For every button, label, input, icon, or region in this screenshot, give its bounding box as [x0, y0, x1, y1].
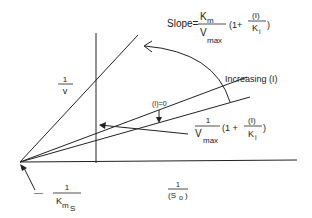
slope-prefix: Slope= — [167, 18, 199, 29]
x-label-den: (S — [168, 191, 176, 200]
xint-den-sub: m — [62, 201, 69, 210]
intercept-frac-num: (I) — [248, 116, 256, 125]
intercept-den: V — [195, 128, 202, 139]
intercept-den-sub: max — [203, 136, 218, 145]
xint-den-sub2: S — [70, 204, 75, 213]
xintercept-arrowhead-icon — [20, 164, 27, 171]
increasing-label: Increasing (I) — [225, 74, 278, 84]
intercept-factor-close: ) — [263, 123, 266, 133]
diagram-canvas: 1 v Slope= K m V max (1+ (I) K i ) Incre… — [0, 0, 312, 218]
y-label-den: v — [63, 86, 68, 96]
intercept-frac-den-sub: i — [255, 134, 257, 141]
x-axis — [20, 160, 297, 162]
xintercept-arrow — [23, 166, 35, 190]
intercept-num: 1 — [206, 116, 211, 125]
line-high-inhibitor — [20, 35, 138, 162]
slope-frac-num: (I) — [252, 11, 260, 20]
x-label-den-close: ) — [185, 191, 188, 200]
slope-factor-close: ) — [267, 20, 270, 30]
intercept-frac-den: K — [248, 129, 254, 139]
xint-num: 1 — [65, 183, 70, 192]
slope-den-sub: max — [207, 36, 222, 45]
intercept-arrowhead-icon — [99, 122, 106, 129]
line-zero-inhibitor — [20, 97, 250, 162]
slope-frac-den: K — [252, 23, 258, 33]
increasing-arc — [145, 46, 230, 102]
slope-num: K — [200, 11, 207, 22]
intercept-arrow — [100, 125, 188, 134]
x-label-den-sub: o — [179, 194, 183, 201]
line-mid-inhibitor — [20, 77, 247, 162]
xint-prefix: — — [34, 188, 43, 198]
zero-inhibitor-label: (I)=0 — [152, 100, 167, 108]
y-label-num: 1 — [63, 75, 68, 84]
x-label-num: 1 — [176, 181, 180, 188]
slope-frac-den-sub: i — [259, 28, 261, 35]
intercept-factor-open: (1 + — [222, 123, 238, 133]
slope-factor-open: (1+ — [229, 20, 242, 30]
slope-den: V — [200, 27, 207, 38]
